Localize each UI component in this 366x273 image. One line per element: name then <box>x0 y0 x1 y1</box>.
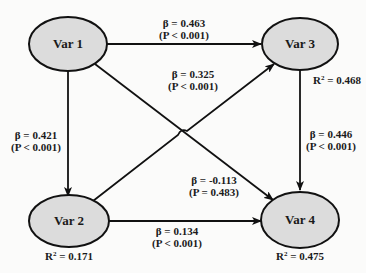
path-diagram: Var 1 Var 2 Var 3 Var 4 R2 = 0.171 R2 = … <box>0 0 366 273</box>
node-var4-label: Var 4 <box>285 214 315 226</box>
node-var2-label: Var 2 <box>54 215 84 227</box>
coef-var2-var4: β = 0.134 (P < 0.001) <box>152 225 202 249</box>
node-var1-label: Var 1 <box>53 38 83 50</box>
coef-var3-var4: β = 0.446 (P < 0.001) <box>306 128 356 152</box>
coef-var1-var2: β = 0.421 (P < 0.001) <box>11 129 61 153</box>
node-var3-label: Var 3 <box>285 38 315 50</box>
coef-var1-var3: β = 0.463 (P < 0.001) <box>159 17 209 41</box>
coef-var1-var4: β = -0.113 (P = 0.483) <box>189 174 239 198</box>
coef-var2-var3: β = 0.325 (P < 0.001) <box>168 68 218 92</box>
r2-var4: R2 = 0.475 <box>276 250 324 262</box>
r2-var3: R2 = 0.468 <box>313 74 361 86</box>
r2-var2: R2 = 0.171 <box>45 250 93 262</box>
